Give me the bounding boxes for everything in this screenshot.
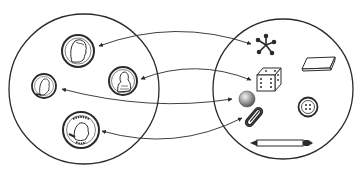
marble-icon [239, 91, 255, 107]
arrow-dime-marble [62, 89, 232, 104]
diagram-canvas [0, 0, 359, 170]
eraser-icon [302, 57, 335, 71]
coin-object-mapping-diagram: Coins Objects [0, 0, 359, 170]
pencil-icon [250, 140, 313, 146]
dime-icon [32, 74, 56, 98]
quarter-icon [63, 112, 99, 148]
penny-icon [109, 67, 137, 95]
die-icon [257, 68, 281, 91]
objects-set-circle [213, 19, 353, 159]
arrow-nickel-jack [99, 31, 251, 46]
jack-icon [257, 35, 276, 55]
button-icon [299, 98, 318, 117]
paperclip-icon [244, 106, 264, 128]
nickel-icon [62, 35, 94, 67]
